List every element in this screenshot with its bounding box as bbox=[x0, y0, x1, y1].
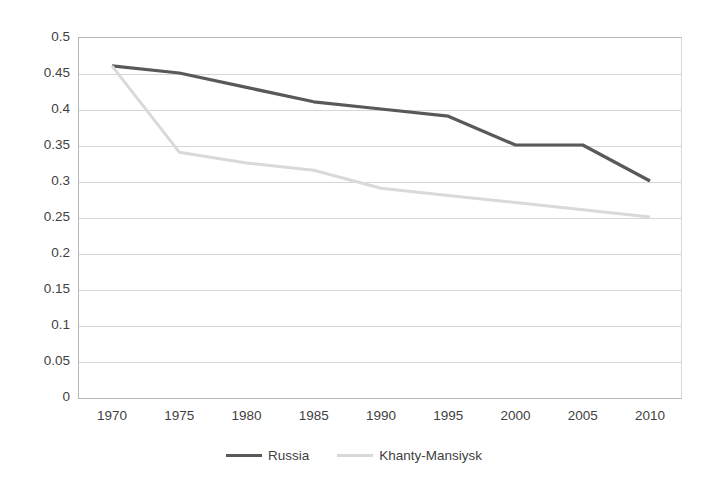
chart-legend: RussiaKhanty-Mansiysk bbox=[0, 449, 708, 463]
legend-item[interactable]: Russia bbox=[226, 449, 309, 463]
series-layer bbox=[0, 0, 708, 497]
legend-label: Russia bbox=[268, 449, 309, 463]
legend-swatch-icon bbox=[226, 454, 262, 457]
line-chart: 0.50.450.40.350.30.250.20.150.10.050 197… bbox=[0, 0, 708, 497]
legend-label: Khanty-Mansiysk bbox=[379, 449, 482, 463]
legend-swatch-icon bbox=[337, 454, 373, 457]
legend-item[interactable]: Khanty-Mansiysk bbox=[337, 449, 482, 463]
series-line-russia bbox=[112, 66, 650, 181]
series-line-khanty-mansiysk bbox=[112, 66, 650, 217]
